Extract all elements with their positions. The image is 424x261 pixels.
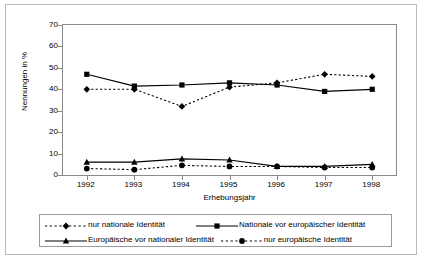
data-point-circle: [131, 167, 137, 173]
legend-entry-nur-europaeische-identitaet: nur europäische Identität: [220, 233, 352, 245]
data-point-circle: [369, 165, 375, 171]
y-tick-mark: [58, 132, 62, 133]
y-tick-mark: [58, 154, 62, 155]
x-tick-label: 1997: [304, 180, 344, 189]
y-tick-mark: [58, 111, 62, 112]
x-tick-mark: [134, 176, 135, 180]
y-tick-label: 70: [38, 21, 58, 29]
data-point-circle: [322, 165, 328, 171]
x-tick-mark: [372, 176, 373, 180]
legend-row: Europäische vor nationaler Identität nur…: [40, 231, 391, 247]
y-tick-label: 20: [38, 128, 58, 136]
series-0: [83, 71, 375, 110]
y-axis-title: Nennungen in %: [20, 32, 29, 132]
data-point-diamond: [83, 86, 90, 93]
data-point-diamond: [179, 103, 186, 110]
x-axis-tick-labels: 1992199319941995199619971998: [62, 180, 397, 192]
legend-label: Nationale vor europäischer Identität: [239, 220, 365, 229]
plot-area: [62, 24, 397, 176]
x-tick-mark: [325, 176, 326, 180]
y-tick-label: 10: [38, 150, 58, 158]
y-tick-mark: [58, 175, 62, 176]
data-point-square: [227, 80, 232, 85]
x-tick-label: 1994: [161, 180, 201, 189]
y-tick-label: 0: [38, 171, 58, 179]
legend-marker-diamond: [44, 218, 88, 230]
legend-entry-europaeische-vor-nationaler-identitaet: Europäische vor nationaler Identität: [44, 233, 214, 245]
data-point-circle: [239, 238, 245, 244]
x-tick-label: 1992: [66, 180, 106, 189]
data-point-diamond: [369, 73, 376, 80]
chart-legend: nur nationale Identität Nationale vor eu…: [39, 214, 392, 247]
x-tick-label: 1996: [256, 180, 296, 189]
y-tick-mark: [58, 68, 62, 69]
y-tick-mark: [58, 46, 62, 47]
x-tick-mark: [230, 176, 231, 180]
data-point-circle: [274, 164, 280, 170]
data-point-square: [274, 82, 279, 87]
data-point-square: [322, 89, 327, 94]
y-tick-label: 30: [38, 107, 58, 115]
figure-frame: Nennungen in % 010203040506070 199219931…: [5, 4, 417, 255]
data-point-square: [132, 83, 137, 88]
x-tick-label: 1993: [113, 180, 153, 189]
data-point-square: [370, 87, 375, 92]
y-axis-tick-labels: 010203040506070: [36, 24, 58, 176]
x-tick-mark: [87, 176, 88, 180]
x-axis-title: Erhebungsjahr: [62, 193, 397, 202]
legend-entry-nur-nationale-identitaet: nur nationale Identität: [44, 218, 165, 230]
legend-label: nur europäische Identität: [264, 235, 352, 244]
series-3: [84, 162, 375, 172]
legend-marker-triangle: [44, 233, 88, 245]
y-tick-label: 50: [38, 64, 58, 72]
data-point-circle: [179, 162, 185, 168]
data-point-square: [84, 72, 89, 77]
data-point-square: [214, 223, 219, 228]
plot-svg: [63, 25, 396, 175]
x-tick-mark: [182, 176, 183, 180]
legend-marker-square: [195, 218, 239, 230]
legend-marker-circle: [220, 233, 264, 245]
y-tick-mark: [58, 89, 62, 90]
x-tick-label: 1998: [351, 180, 391, 189]
data-point-circle: [84, 166, 90, 172]
data-point-circle: [227, 164, 233, 170]
data-point-diamond: [63, 223, 70, 230]
legend-entry-nationale-vor-europaeischer-identitaet: Nationale vor europäischer Identität: [195, 218, 365, 230]
legend-row: nur nationale Identität Nationale vor eu…: [40, 216, 391, 232]
legend-label: nur nationale Identität: [88, 220, 165, 229]
data-point-diamond: [321, 71, 328, 78]
legend-label: Europäische vor nationaler Identität: [88, 235, 214, 244]
y-tick-mark: [58, 25, 62, 26]
data-point-square: [179, 82, 184, 87]
x-tick-label: 1995: [209, 180, 249, 189]
y-tick-label: 60: [38, 42, 58, 50]
x-tick-mark: [277, 176, 278, 180]
y-tick-label: 40: [38, 85, 58, 93]
